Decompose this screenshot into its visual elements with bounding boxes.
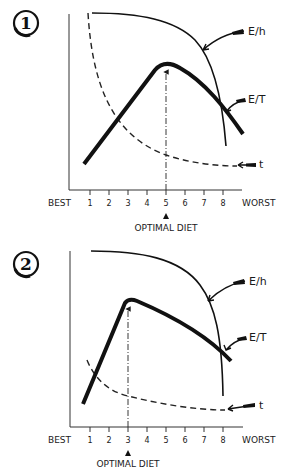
svg-text:3: 3	[125, 436, 130, 445]
optimal-marker-icon	[163, 213, 169, 219]
label-t: t	[259, 399, 264, 412]
svg-text:4: 4	[144, 199, 149, 208]
best-label: BEST	[48, 435, 72, 445]
label-et: E/T	[248, 93, 266, 106]
label-et: E/T	[249, 331, 267, 344]
optimal-marker-icon	[125, 450, 131, 456]
optimal-diet-label: OPTIMAL DIET	[134, 223, 198, 233]
svg-text:5: 5	[163, 199, 168, 208]
figure: 1 BEST 1 2 3 4 5 6 7 8 WORST OPTIMAL DIE…	[0, 0, 287, 475]
label-eh: E/h	[248, 25, 266, 38]
svg-text:1: 1	[87, 436, 92, 445]
svg-text:7: 7	[201, 436, 206, 445]
svg-text:1: 1	[87, 199, 92, 208]
worst-label: WORST	[242, 435, 276, 445]
svg-text:6: 6	[182, 199, 187, 208]
svg-text:2: 2	[106, 199, 111, 208]
x-ticks	[90, 190, 223, 195]
worst-label: WORST	[242, 198, 276, 208]
svg-text:8: 8	[220, 199, 225, 208]
optimal-diet-label: OPTIMAL DIET	[96, 459, 160, 469]
svg-text:2: 2	[106, 436, 111, 445]
curve-t	[87, 360, 225, 410]
panel-2-badge: 2	[14, 252, 38, 277]
curve-eh	[91, 251, 223, 396]
svg-text:6: 6	[182, 436, 187, 445]
svg-text:5: 5	[163, 436, 168, 445]
panel-1-badge: 1	[14, 11, 38, 36]
svg-text:3: 3	[125, 199, 130, 208]
panel-2: 2 BEST 1 2 3 4 5 6 7 8 WORST OPTIMAL DIE…	[14, 251, 276, 469]
curve-t	[88, 13, 237, 166]
label-t: t	[259, 158, 264, 171]
svg-text:8: 8	[220, 436, 225, 445]
curve-et	[83, 300, 231, 404]
best-label: BEST	[48, 198, 72, 208]
svg-text:7: 7	[201, 199, 206, 208]
x-ticks	[90, 427, 223, 432]
label-eh: E/h	[249, 275, 267, 288]
panel-1: 1 BEST 1 2 3 4 5 6 7 8 WORST OPTIMAL DIE…	[14, 11, 276, 233]
svg-text:4: 4	[144, 436, 149, 445]
svg-text:2: 2	[20, 254, 32, 274]
curve-et	[84, 64, 243, 164]
svg-text:1: 1	[20, 13, 32, 33]
